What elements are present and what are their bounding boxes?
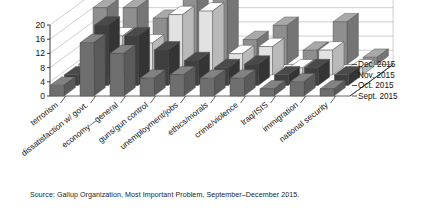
category-tick (181, 96, 186, 103)
y-tick-label: 4 (40, 77, 45, 87)
y-tick-label: 8 (40, 63, 45, 73)
category-tick (211, 96, 216, 103)
chart-source-note: Source: Gallup Organization, Most Import… (30, 191, 299, 199)
gridline-depth (50, 8, 93, 40)
category-tick (151, 96, 156, 103)
y-tick-label: 16 (35, 34, 45, 44)
three-d-bar-chart: 048121620terrorismdissatisfaction w/ gov… (0, 0, 429, 222)
legend-label-3: Sept. 2015 (358, 92, 398, 101)
chart-figure: 048121620terrorismdissatisfaction w/ gov… (0, 0, 429, 222)
category-tick (241, 96, 246, 103)
legend-label-2: Oct. 2015 (358, 81, 394, 90)
y-tick-label: 0 (40, 91, 45, 101)
category-tick (331, 96, 336, 103)
bar (110, 45, 135, 96)
y-tick-label: 20 (35, 20, 45, 30)
legend-label-1: Nov. 2015 (358, 71, 395, 80)
category-tick (61, 96, 66, 103)
category-label-2: economy—general (60, 100, 120, 150)
bar (80, 34, 105, 96)
category-tick (301, 96, 306, 103)
category-tick (271, 96, 276, 103)
category-tick (91, 96, 96, 103)
category-tick (121, 96, 126, 103)
y-tick-label: 12 (35, 48, 45, 58)
legend-label-0: Dec. 2015 (358, 60, 396, 69)
